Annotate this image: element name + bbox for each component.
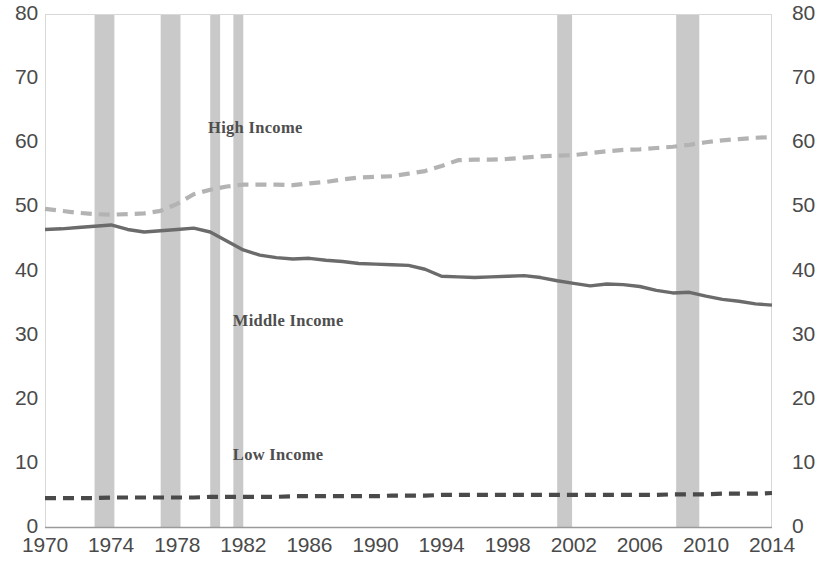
series-annotation-low-income: Low Income <box>233 445 324 465</box>
x-axis-tick-2010: 2010 <box>671 533 741 557</box>
x-axis-tick-1990: 1990 <box>340 533 410 557</box>
y-axis-right-tick-70: 70 <box>792 65 815 89</box>
series-line-high-income <box>45 137 772 215</box>
y-axis-right-tick-20: 20 <box>792 386 815 410</box>
y-axis-right-tick-10: 10 <box>792 450 815 474</box>
y-axis-right-tick-40: 40 <box>792 258 815 282</box>
income-share-line-chart: 80706050403020100 80706050403020100 1970… <box>0 0 815 562</box>
y-axis-right-tick-60: 60 <box>792 129 815 153</box>
x-axis-tick-1998: 1998 <box>473 533 543 557</box>
chart-canvas <box>0 0 815 562</box>
y-axis-left-tick-40: 40 <box>0 258 38 282</box>
y-axis-right-tick-50: 50 <box>792 193 815 217</box>
x-axis-tick-1986: 1986 <box>274 533 344 557</box>
plot-frame <box>45 15 772 528</box>
recession-band <box>557 14 572 527</box>
x-axis-tick-1974: 1974 <box>76 533 146 557</box>
series-lines-group <box>45 137 772 498</box>
x-axis-tick-1994: 1994 <box>407 533 477 557</box>
x-axis-tick-2014: 2014 <box>737 533 807 557</box>
y-axis-left-tick-30: 30 <box>0 322 38 346</box>
series-line-middle-income <box>45 225 772 305</box>
recession-band <box>161 14 181 527</box>
x-axis-tick-2002: 2002 <box>539 533 609 557</box>
y-axis-left-tick-10: 10 <box>0 450 38 474</box>
y-axis-right-tick-30: 30 <box>792 322 815 346</box>
x-axis-tick-1970: 1970 <box>10 533 80 557</box>
recession-band <box>95 14 115 527</box>
recession-bands-group <box>95 14 700 527</box>
recession-band <box>676 14 699 527</box>
series-line-low-income <box>45 493 772 498</box>
y-axis-left-tick-20: 20 <box>0 386 38 410</box>
x-axis-tick-1982: 1982 <box>208 533 278 557</box>
recession-band <box>210 14 220 527</box>
y-axis-left-tick-70: 70 <box>0 65 38 89</box>
y-axis-left-tick-50: 50 <box>0 193 38 217</box>
y-axis-left-tick-80: 80 <box>0 1 38 25</box>
y-axis-right-tick-80: 80 <box>792 1 815 25</box>
series-annotation-middle-income: Middle Income <box>233 311 344 331</box>
y-axis-left-tick-60: 60 <box>0 129 38 153</box>
x-axis-tick-2006: 2006 <box>605 533 675 557</box>
series-annotation-high-income: High Income <box>208 118 303 138</box>
x-axis-tick-1978: 1978 <box>142 533 212 557</box>
